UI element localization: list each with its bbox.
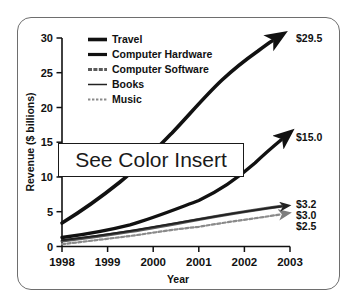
end-label-computer-hardware: $15.0 <box>296 131 322 143</box>
end-label-travel: $29.5 <box>296 32 322 44</box>
y-tick-label-30: 30 <box>41 32 53 44</box>
y-tick-label-25: 25 <box>41 67 53 79</box>
end-label-music: $2.5 <box>296 220 317 232</box>
series-line-music <box>62 214 281 244</box>
x-tick-label-2000: 2000 <box>140 256 166 268</box>
y-tick-label-10: 10 <box>41 171 53 183</box>
see-color-insert-box: See Color Insert <box>58 143 244 177</box>
x-tick-label-2002: 2002 <box>232 256 258 268</box>
legend-label-travel: Travel <box>112 33 142 45</box>
y-tick-label-0: 0 <box>47 241 53 253</box>
see-color-insert-label: See Color Insert <box>75 148 227 172</box>
x-axis-ticks <box>62 247 290 253</box>
y-axis-title: Revenue ($ billions) <box>24 92 36 191</box>
x-axis-title: Year <box>167 273 189 285</box>
legend: Travel Computer Hardware Computer Softwa… <box>88 33 213 105</box>
legend-label-books: Books <box>112 78 144 90</box>
y-tick-label-20: 20 <box>41 102 53 114</box>
x-tick-label-2003: 2003 <box>277 256 303 268</box>
legend-label-computer-software: Computer Software <box>112 63 209 75</box>
legend-label-computer-hardware: Computer Hardware <box>112 48 213 60</box>
y-tick-label-5: 5 <box>47 206 53 218</box>
x-tick-label-1999: 1999 <box>95 256 121 268</box>
x-tick-label-2001: 2001 <box>186 256 212 268</box>
x-tick-label-1998: 1998 <box>49 256 75 268</box>
y-tick-label-15: 15 <box>41 136 53 148</box>
legend-label-music: Music <box>112 93 142 105</box>
figure-container: 30 25 20 15 10 5 0 1998 1999 2000 2001 2… <box>0 0 356 308</box>
